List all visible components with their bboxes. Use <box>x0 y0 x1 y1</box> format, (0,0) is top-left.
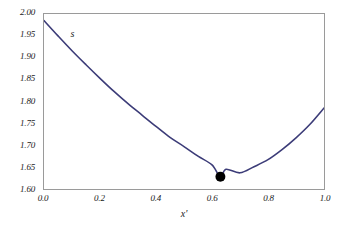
curve-label-s: s <box>71 28 75 39</box>
y-tick-label: 1.75 <box>20 118 39 128</box>
y-tick-label: 1.70 <box>20 140 39 150</box>
y-tick-label: 1.85 <box>20 73 39 83</box>
y-tick-label: 1.90 <box>20 51 39 61</box>
minimum-point-marker <box>215 172 225 182</box>
x-tick-label: 0.8 <box>255 193 283 203</box>
y-tick-label: 1.65 <box>20 162 39 172</box>
series-curve-s <box>44 21 324 177</box>
y-tick-label: 1.95 <box>20 29 39 39</box>
x-tick-label: 1.0 <box>311 193 339 203</box>
x-tick-label: 0.6 <box>198 193 226 203</box>
plot-area: s <box>43 13 325 190</box>
y-tick-label: 2.00 <box>20 7 39 17</box>
x-axis-tick-labels: 0.00.20.40.60.81.0 <box>43 193 325 207</box>
y-axis-tick-labels: 1.601.651.701.751.801.851.901.952.00 <box>0 13 39 190</box>
chart-figure: 1.601.651.701.751.801.851.901.952.00 s 0… <box>0 0 342 233</box>
x-tick-label: 0.4 <box>142 193 170 203</box>
y-tick-label: 1.80 <box>20 96 39 106</box>
plot-canvas <box>44 14 324 189</box>
x-tick-label: 0.0 <box>29 193 57 203</box>
x-axis-title: x' <box>43 208 325 219</box>
x-tick-label: 0.2 <box>85 193 113 203</box>
